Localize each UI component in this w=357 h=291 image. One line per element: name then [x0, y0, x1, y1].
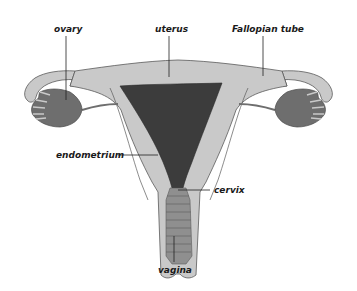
vagina	[166, 188, 192, 264]
label-fallopian-tube: Fallopian tube	[232, 24, 304, 34]
label-cervix: cervix	[214, 185, 245, 195]
right-ovarian-ligament	[239, 104, 275, 110]
anatomy-illustration	[0, 0, 357, 291]
label-ovary: ovary	[54, 24, 82, 34]
label-endometrium: endometrium	[56, 150, 124, 160]
left-ovarian-ligament	[82, 104, 118, 110]
label-uterus: uterus	[155, 24, 188, 34]
label-vagina: vagina	[158, 265, 192, 275]
reproductive-system-diagram: ovary uterus Fallopian tube endometrium …	[0, 0, 357, 291]
